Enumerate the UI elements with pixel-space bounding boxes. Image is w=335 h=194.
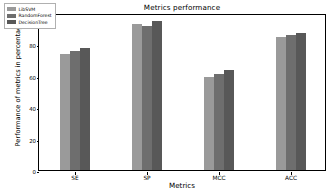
y-tick-mark: [37, 172, 40, 173]
bar-sp-libsvm: [132, 24, 142, 170]
y-tick-label: 60: [16, 75, 36, 81]
figure-canvas: Metrics performance Performance of metri…: [0, 0, 335, 194]
chart-title: Metrics performance: [38, 3, 326, 12]
y-tick-mark: [37, 46, 40, 47]
y-tick-label: 80: [16, 43, 36, 49]
plot-area: 020406080SESPMCCACC: [38, 14, 326, 171]
legend-item: LibSVM: [7, 6, 52, 12]
y-tick-mark: [37, 78, 40, 79]
chart-screenshot: Metrics performance Performance of metri…: [0, 0, 335, 194]
bar-mcc-randomforest: [214, 74, 224, 170]
legend-label: RandomForest: [19, 13, 52, 18]
chart-legend: LibSVMRandomForestDecisionTree: [4, 3, 56, 29]
legend-label: LibSVM: [19, 7, 36, 12]
legend-item: DecisionTree: [7, 19, 52, 25]
x-axis-label: Metrics: [38, 181, 326, 190]
legend-swatch-icon: [7, 14, 16, 18]
bar-mcc-decisiontree: [224, 70, 234, 170]
bar-acc-randomforest: [286, 35, 296, 170]
bar-se-decisiontree: [80, 48, 90, 170]
bar-sp-decisiontree: [152, 21, 162, 170]
bar-mcc-libsvm: [204, 77, 214, 170]
bar-se-libsvm: [60, 54, 70, 170]
bar-acc-libsvm: [276, 37, 286, 170]
bar-se-randomforest: [70, 51, 80, 170]
y-tick-label: 20: [16, 138, 36, 144]
y-tick-label: 40: [16, 106, 36, 112]
y-tick-mark: [37, 109, 40, 110]
legend-item: RandomForest: [7, 13, 52, 19]
bar-acc-decisiontree: [296, 33, 306, 170]
y-tick-mark: [37, 141, 40, 142]
y-tick-label: 0: [16, 169, 36, 175]
legend-label: DecisionTree: [19, 20, 48, 25]
bar-sp-randomforest: [142, 26, 152, 170]
legend-swatch-icon: [7, 7, 16, 11]
legend-swatch-icon: [7, 20, 16, 24]
